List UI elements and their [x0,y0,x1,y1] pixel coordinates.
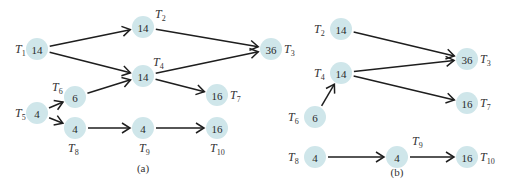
node-a-t1: 14 [26,38,48,60]
edge-b-t2-t3 [354,32,455,59]
node-label: T8 [288,150,299,166]
node-b-t8: 4 [304,146,326,168]
node-value: 4 [72,123,78,135]
node-b-t3: 36 [456,48,478,70]
node-b-t6: 6 [304,106,326,128]
node-value: 14 [32,44,44,56]
node-label: T9 [139,141,150,157]
node-value: 4 [140,123,146,135]
node-a-t7: 16 [206,84,228,106]
node-label: T4 [153,55,164,71]
node-b-t10: 16 [456,146,478,168]
node-value: 4 [34,108,40,120]
edge-b-t8-t9 [328,152,384,162]
node-label: T6 [288,110,299,126]
node-a-t8: 4 [64,117,86,139]
node-value: 14 [138,71,150,83]
node-label: T10 [480,150,495,166]
edge-line [50,30,131,47]
node-value: 4 [394,152,400,164]
node-value: 16 [462,152,474,164]
edge-line [354,60,454,71]
node-label: T3 [480,52,491,68]
edge-a-t4-t3 [156,48,259,73]
node-value: 6 [312,112,318,124]
node-label: T2 [155,7,166,23]
node-a-t2: 14 [132,16,154,38]
edge-a-t6-t4 [87,77,130,93]
node-b-t4: 14 [330,62,352,84]
edge-a-t2-t3 [156,29,258,50]
edge-line [354,76,455,100]
edge-a-t5-t8 [49,116,63,125]
edge-line [50,52,131,73]
node-a-t9: 4 [132,117,154,139]
node-label: T2 [314,22,325,38]
node-value: 36 [462,54,474,66]
captions-layer: (a)(b) [137,162,404,179]
edge-a-t5-t6 [49,101,63,110]
node-value: 16 [462,98,474,110]
node-a-t3: 36 [260,38,282,60]
node-value: 14 [336,24,348,36]
edge-line [156,79,205,92]
panel-caption-a: (a) [137,162,150,175]
edge-b-t4-t3 [354,56,454,71]
node-label: T8 [68,141,79,157]
node-value: 6 [72,92,78,104]
edge-b-t9-t10 [410,152,454,162]
node-b-t7: 16 [456,92,478,114]
node-b-t2: 14 [330,18,352,40]
node-label: T7 [230,88,241,104]
node-label: T7 [480,96,491,112]
panel-caption-b: (b) [391,166,404,179]
node-value: 16 [212,123,224,135]
node-a-t6: 6 [64,86,86,108]
node-label: T6 [52,80,63,96]
node-value: 16 [212,90,224,102]
node-value: 14 [138,22,150,34]
node-a-t10: 16 [206,117,228,139]
node-label: T1 [15,42,26,58]
edge-b-t4-t7 [354,76,455,103]
task-graph-figure: 14143614461644161414636164416 T1T2T3T4T5… [0,0,518,186]
node-label: T10 [210,141,225,157]
node-label: T9 [412,134,423,150]
node-b-t9: 4 [386,146,408,168]
edge-a-t1-t4 [50,52,131,75]
node-a-t4: 14 [132,65,154,87]
node-value: 36 [266,44,278,56]
node-label: T5 [15,106,26,122]
nodes-layer: 14143614461644161414636164416 [26,16,478,168]
edge-a-t1-t2 [50,26,131,46]
node-label: T3 [284,42,295,58]
edge-b-t6-t4 [322,84,335,106]
node-value: 4 [312,152,318,164]
edge-line [156,52,259,74]
labels-layer: T1T2T3T4T5T6T7T8T9T10T2T4T6T3T7T8T9T10 [15,7,495,166]
node-a-t5: 4 [26,102,48,124]
edge-a-t8-t9 [88,123,130,133]
edge-a-t9-t10 [156,123,204,133]
edge-line [156,29,258,47]
edges-layer [49,26,454,162]
edge-a-t4-t7 [156,79,205,94]
edge-line [354,32,455,56]
node-label: T4 [314,66,325,82]
node-value: 14 [336,68,348,80]
